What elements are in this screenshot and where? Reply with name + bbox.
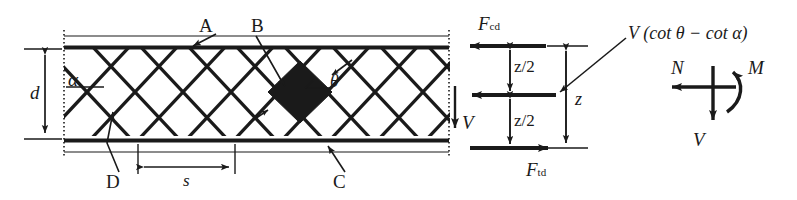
callout-label-B: B xyxy=(251,16,264,35)
force-label-V: V xyxy=(462,113,474,132)
figure-canvas: A B C D α θ d s Fcd Ftd V z/2 z/2 z V (c… xyxy=(0,0,797,200)
callout-label-A: A xyxy=(199,16,213,35)
dimension-label-z-half-upper: z/2 xyxy=(514,58,535,75)
dimension-label-d: d xyxy=(30,83,40,102)
force-label-Fcd: Fcd xyxy=(478,14,500,33)
resultant-label-M: M xyxy=(748,58,764,77)
angle-label-theta: θ xyxy=(330,72,339,90)
force-label-Ftd: Ftd xyxy=(526,160,546,179)
force-label-Ftd-symbol: F xyxy=(526,159,538,180)
callout-label-D: D xyxy=(106,172,120,191)
resultant-label-N: N xyxy=(671,58,684,77)
dimension-label-z-half-lower: z/2 xyxy=(514,112,535,129)
dimension-label-z: z xyxy=(575,90,582,108)
spacing-dimension-s xyxy=(138,144,235,174)
highlighted-strut-element xyxy=(268,61,332,123)
callout-label-C: C xyxy=(333,172,346,191)
truss-panel xyxy=(42,30,516,174)
angle-label-alpha: α xyxy=(68,70,78,89)
resultant-label-V: V xyxy=(693,130,705,149)
callout-leader-C xyxy=(328,146,345,172)
free-body-force-diagram xyxy=(455,38,626,148)
force-label-Fcd-symbol: F xyxy=(478,13,490,34)
resultant-arrow-M xyxy=(727,72,741,112)
force-label-Ftd-subscript: td xyxy=(538,166,547,178)
annotation-shear-resultant: V (cot θ − cot α) xyxy=(628,24,748,42)
dimension-label-s: s xyxy=(183,172,190,189)
force-label-Fcd-subscript: cd xyxy=(490,20,500,32)
